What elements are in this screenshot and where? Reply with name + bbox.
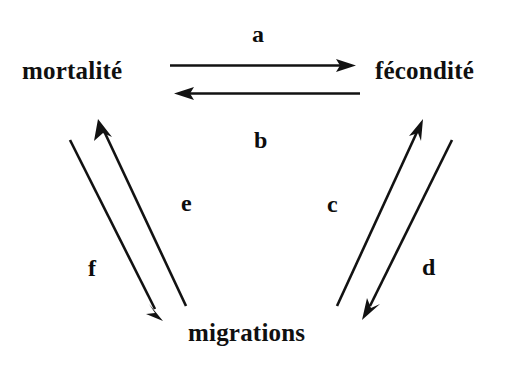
node-fecondite: fécondité — [375, 58, 474, 83]
diagram-canvas: mortalité fécondité migrations a b c d e… — [0, 0, 513, 366]
edge-d-arrow — [362, 140, 452, 320]
edge-c-arrow — [337, 119, 423, 306]
node-mortalite: mortalité — [22, 58, 122, 83]
node-migrations: migrations — [188, 320, 305, 345]
edge-b-arrow — [174, 87, 360, 100]
edge-a-arrow — [170, 59, 356, 72]
arrow-layer — [0, 0, 513, 366]
edge-label-d: d — [422, 255, 435, 279]
edge-label-a: a — [252, 22, 264, 46]
edge-f-arrow — [70, 140, 163, 321]
edge-label-c: c — [327, 192, 338, 216]
edge-label-f: f — [88, 256, 96, 280]
edge-label-b: b — [254, 128, 267, 152]
edge-label-e: e — [181, 191, 192, 215]
